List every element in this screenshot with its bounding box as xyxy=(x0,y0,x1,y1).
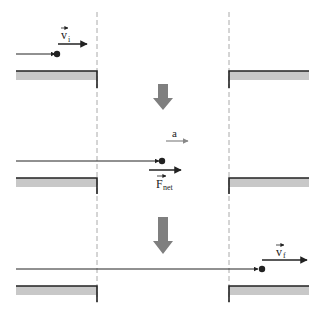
transition-down-arrow-1 xyxy=(153,84,173,110)
velocity-symbol: v xyxy=(276,245,282,259)
velocity-subscript: i xyxy=(68,35,71,44)
diagram-canvas: v i a F net xyxy=(0,0,324,315)
velocity-subscript: f xyxy=(283,251,286,260)
object-dot xyxy=(54,51,60,57)
acceleration-arrow: a xyxy=(166,127,188,141)
force-symbol: F xyxy=(156,177,163,191)
ledge-right xyxy=(229,286,309,302)
stage-middle: a F net xyxy=(16,127,309,194)
velocity-symbol: v xyxy=(61,28,67,42)
velocity-label-initial: v i xyxy=(61,28,71,44)
velocity-label-final: v f xyxy=(276,245,286,260)
stage-initial: v i xyxy=(16,28,309,88)
ledge-right xyxy=(229,71,309,88)
object-dot xyxy=(159,158,165,164)
ledge-left xyxy=(16,178,97,194)
acceleration-label: a xyxy=(172,127,177,139)
ledge-left xyxy=(16,71,97,88)
object-dot xyxy=(259,266,265,272)
stage-final: v f xyxy=(16,245,309,302)
ledge-right xyxy=(229,178,309,194)
force-subscript: net xyxy=(163,183,174,192)
ledge-left xyxy=(16,286,97,302)
net-force-label: F net xyxy=(156,176,174,192)
transition-down-arrow-2 xyxy=(153,217,173,254)
